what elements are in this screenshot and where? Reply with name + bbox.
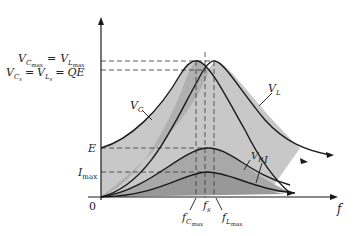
label-vc-curve: VC (130, 99, 144, 114)
label-vc-s: VCs=VLs=QE (6, 66, 85, 82)
y-axis-arrowhead (98, 17, 104, 25)
label-origin: 0 (89, 200, 96, 213)
i-arrowhead (287, 190, 295, 196)
x-axis-arrowhead (330, 194, 338, 200)
label-vl-curve: VL (268, 82, 281, 97)
label-e: E (87, 142, 96, 155)
vl-arrowhead (326, 152, 334, 158)
label-fc-max: fCmax (181, 211, 204, 227)
resonance-diagram: VCmax=VLmax VCs=VLs=QE E Imax 0 VC VL VR… (0, 0, 355, 236)
fl-leader (216, 198, 222, 210)
vr-arrowhead (300, 158, 308, 164)
label-imax: Imax (77, 166, 97, 181)
label-fl-max: fLmax (221, 211, 243, 227)
label-fs: fs (202, 199, 211, 214)
label-x-axis-f: f (336, 202, 344, 216)
fc-leader (190, 198, 196, 210)
